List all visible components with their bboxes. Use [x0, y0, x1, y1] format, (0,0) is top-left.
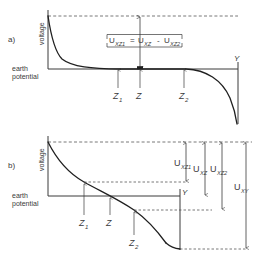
panel-b-earth-label-line1: earth	[12, 192, 28, 199]
panel-b-measure-label-uxz2: U XZ2	[210, 164, 227, 176]
panel-a-eq-op2: -	[157, 36, 160, 45]
panel-a-z-base: Z	[135, 91, 142, 101]
panel-b-earth-label-line2: potential	[12, 200, 39, 208]
panel-a-eq-op1: =	[130, 36, 135, 45]
figure-root: a) voltage earth potential Y Z 1 Z Z 2	[0, 0, 261, 259]
panel-a-descending-curve	[186, 69, 237, 124]
panel-a-eq-term3-sub: XZ2	[169, 41, 180, 47]
panel-a-voltage-axis-label: voltage	[38, 22, 46, 45]
panel-b-tick-label-z2: Z 2	[128, 238, 139, 250]
panel-a-equation: U XZ1 = U XZ - U XZ2	[109, 36, 180, 47]
panel-b-voltage-axis-label: voltage	[38, 148, 46, 171]
panel-a-label: a)	[8, 35, 15, 44]
panel-b-uxy-sub: XY	[240, 188, 249, 194]
panel-b-measure-label-uxz1: U XZ1	[174, 158, 191, 170]
panel-b-measure-label-uxz: U XZ	[193, 164, 208, 176]
panel-a-eq-term2-sub: XZ	[143, 41, 152, 47]
panel-b-curve-tail	[166, 243, 180, 249]
panel-b-uxy-base: U	[234, 182, 241, 192]
panel-b-z1-base: Z	[78, 218, 85, 228]
panel-b: b) voltage earth potential Y Z 1 Z Z 2	[8, 136, 252, 250]
panel-b-uxz1-base: U	[174, 158, 181, 168]
panel-a-z2-sub: 2	[184, 97, 189, 103]
figure-svg: a) voltage earth potential Y Z 1 Z Z 2	[0, 0, 261, 259]
panel-b-tick-label-z: Z	[105, 218, 112, 228]
panel-b-z2-base: Z	[128, 238, 135, 248]
panel-a-earth-label-line1: earth	[12, 65, 28, 72]
panel-b-uxz-base: U	[193, 164, 200, 174]
panel-b-z2-sub: 2	[134, 244, 139, 250]
panel-b-uxz1-sub: XZ1	[180, 164, 191, 170]
panel-b-measure-label-uxy: U XY	[234, 182, 249, 194]
panel-a-center-node	[137, 66, 143, 69]
panel-b-tick-label-z1: Z 1	[78, 218, 88, 230]
panel-a-y-marker: Y	[234, 54, 240, 63]
panel-a-z1-base: Z	[112, 91, 119, 101]
panel-a: a) voltage earth potential Y Z 1 Z Z 2	[8, 10, 240, 124]
panel-b-z-base: Z	[105, 218, 112, 228]
panel-b-y-marker: Y	[182, 188, 188, 197]
panel-a-tick-label-z1: Z 1	[112, 91, 122, 103]
panel-b-z1-sub: 1	[85, 224, 88, 230]
panel-a-eq-term1-sub: XZ1	[114, 41, 125, 47]
panel-a-tick-label-z: Z	[135, 91, 142, 101]
panel-a-z1-sub: 1	[119, 97, 122, 103]
panel-b-uxz-sub: XZ	[199, 170, 208, 176]
panel-b-uxz2-sub: XZ2	[216, 170, 227, 176]
panel-b-label: b)	[8, 161, 15, 170]
panel-b-uxz2-base: U	[210, 164, 217, 174]
panel-a-z2-base: Z	[178, 91, 185, 101]
panel-a-earth-label-line2: potential	[12, 73, 39, 81]
panel-a-tick-label-z2: Z 2	[178, 91, 189, 103]
